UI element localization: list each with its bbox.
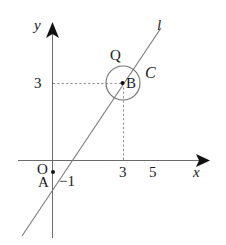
line-l-label: l <box>157 18 161 33</box>
y-axis <box>46 22 59 238</box>
point-q-label: Q <box>110 48 121 63</box>
x-axis-label: x <box>193 165 200 180</box>
figure-canvas <box>0 0 226 245</box>
point-a-marker <box>51 170 55 174</box>
y-axis-label: y <box>34 18 41 33</box>
point-a-value-label: −1 <box>59 174 75 189</box>
guide-lines <box>53 83 124 160</box>
point-b-marker <box>121 81 125 85</box>
geometry-figure: y x O 3 3 5 A −1 B Q C l <box>0 0 226 245</box>
x-tick-label-3: 3 <box>119 165 127 180</box>
point-b-label: B <box>126 76 136 91</box>
x-tick-label-5: 5 <box>149 165 157 180</box>
point-a-label: A <box>38 175 49 190</box>
circle-c-label: C <box>145 65 156 81</box>
line-l <box>22 28 161 236</box>
y-tick-label-3: 3 <box>34 76 42 91</box>
